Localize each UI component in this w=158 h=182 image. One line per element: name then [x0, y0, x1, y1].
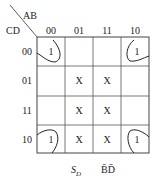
cell-r1-c2: X: [93, 76, 121, 86]
cell-r2-c1: X: [65, 106, 93, 116]
cell-r3-c2: X: [93, 135, 121, 145]
cell-r1-c1: X: [65, 76, 93, 86]
col-variable-label: AB: [20, 11, 40, 21]
col-label-00: 00: [37, 26, 65, 36]
row-label-01: 01: [18, 76, 36, 86]
cell-r0-c0: 1: [37, 47, 65, 57]
cell-r3-c3: 1: [123, 135, 151, 145]
row-label-00: 00: [18, 47, 36, 57]
col-label-11: 11: [93, 26, 121, 36]
row-label-11: 11: [18, 106, 36, 116]
cell-r3-c0: 1: [37, 135, 65, 145]
footer-label-bd-bar: B̄D̄: [101, 164, 115, 175]
row-variable-label: CD: [2, 26, 24, 36]
cell-r0-c3: 1: [123, 47, 151, 57]
row-label-10: 10: [18, 135, 36, 145]
col-label-10: 10: [121, 26, 149, 36]
cell-r3-c1: X: [65, 135, 93, 145]
col-label-01: 01: [65, 26, 93, 36]
footer-label-sd: SD: [71, 164, 81, 178]
cell-r2-c2: X: [93, 106, 121, 116]
